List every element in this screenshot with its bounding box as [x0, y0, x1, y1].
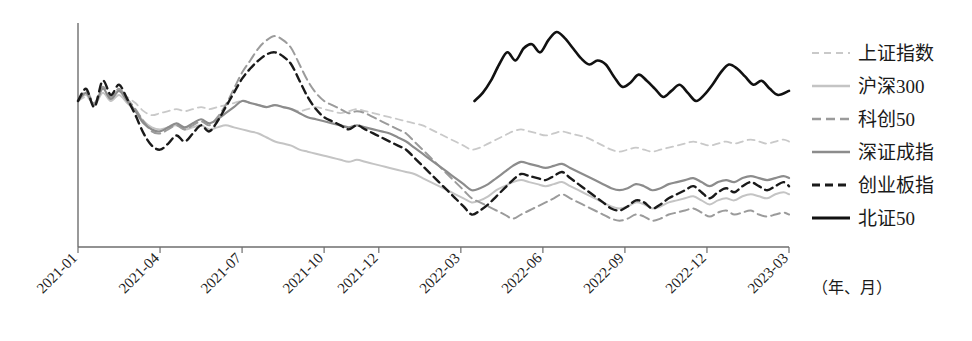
series-line-深证成指	[78, 89, 789, 191]
series-line-北证50	[475, 32, 789, 101]
chart-legend: 上证指数沪深300科创50深证成指创业板指北证50	[812, 43, 934, 229]
legend-label-创业板指: 创业板指	[858, 175, 934, 196]
legend-label-深证成指: 深证成指	[858, 142, 934, 163]
chart-figure: 2021-012021-042021-072021-102021-122022-…	[0, 0, 972, 341]
x-tick-label: 2022-06	[498, 249, 545, 296]
legend-label-沪深300: 沪深300	[858, 76, 925, 97]
x-axis-ticks: 2021-012021-042021-072021-102021-122022-…	[33, 247, 791, 296]
x-tick-label: 2021-01	[33, 250, 80, 297]
x-tick-label: 2021-04	[115, 249, 162, 296]
x-tick-label: 2021-12	[334, 250, 381, 297]
legend-label-北证50: 北证50	[858, 208, 915, 229]
series-line-创业板指	[78, 52, 789, 214]
x-tick-label: 2021-10	[280, 250, 327, 297]
axes-group	[78, 23, 789, 247]
x-tick-label: 2022-12	[662, 250, 709, 297]
legend-label-上证指数: 上证指数	[858, 43, 934, 64]
x-tick-label: 2022-03	[416, 250, 463, 297]
x-tick-label: 2022-09	[580, 250, 627, 297]
x-tick-label: 2023-03	[744, 250, 791, 297]
legend-label-科创50: 科创50	[858, 109, 915, 130]
series-line-上证指数	[78, 91, 789, 152]
x-tick-label: 2021-07	[198, 249, 245, 296]
line-chart-canvas: 2021-012021-042021-072021-102021-122022-…	[0, 0, 972, 341]
axis-unit-label: （年、月）	[812, 279, 892, 296]
series-group	[78, 32, 789, 221]
